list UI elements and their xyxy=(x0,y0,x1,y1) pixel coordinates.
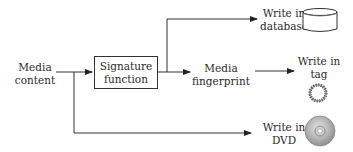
media-content-line1: Media xyxy=(12,61,58,74)
signature-function-box: Signature function xyxy=(94,56,158,89)
write-tag-line2: tag xyxy=(292,68,346,81)
media-content-label: Media content xyxy=(12,61,58,86)
media-fingerprint-line1: Media xyxy=(190,62,252,75)
media-content-line2: content xyxy=(12,74,58,87)
media-fingerprint-label: Media fingerprint xyxy=(190,62,252,87)
database-icon xyxy=(301,6,339,34)
write-tag-label: Write in tag xyxy=(292,55,346,80)
write-tag-line1: Write in xyxy=(292,55,346,68)
tag-ring-icon xyxy=(307,82,329,104)
signature-function-line1: Signature xyxy=(100,60,153,73)
media-fingerprint-line2: fingerprint xyxy=(190,75,252,88)
dvd-disc-icon xyxy=(304,115,336,147)
signature-function-line2: function xyxy=(100,73,153,86)
